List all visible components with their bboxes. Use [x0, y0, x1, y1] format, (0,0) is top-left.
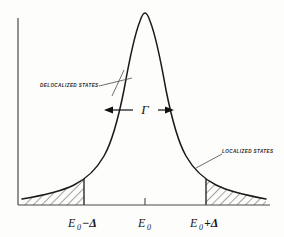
- delocalized-pointer-line: [112, 70, 124, 96]
- svg-text:0: 0: [199, 223, 203, 232]
- svg-text:+Δ: +Δ: [204, 216, 218, 230]
- svg-text:E: E: [67, 216, 76, 230]
- density-of-states-figure: Γ DELOCALIZED STATES LOCALIZED STATES E …: [0, 0, 284, 237]
- svg-text:E: E: [189, 216, 198, 230]
- gamma-symbol-label: Γ: [140, 102, 149, 117]
- svg-text:0: 0: [147, 223, 151, 232]
- delocalized-leader-line: [99, 78, 132, 86]
- localized-left-region: [18, 160, 88, 208]
- x-tick-label-left: E 0 −Δ: [67, 216, 97, 232]
- localized-states-label: LOCALIZED STATES: [222, 149, 274, 154]
- gamma-width-arrow: [104, 107, 174, 114]
- svg-text:−Δ: −Δ: [82, 216, 97, 230]
- delocalized-states-label: DELOCALIZED STATES: [40, 83, 99, 88]
- x-tick-label-right: E 0 +Δ: [189, 216, 218, 232]
- svg-text:0: 0: [77, 223, 81, 232]
- localized-right-region: [200, 160, 272, 208]
- x-tick-label-center: E 0: [137, 216, 151, 232]
- plot-canvas: Γ DELOCALIZED STATES LOCALIZED STATES E …: [0, 0, 284, 237]
- svg-text:E: E: [137, 216, 146, 230]
- localized-leader-line: [196, 154, 222, 168]
